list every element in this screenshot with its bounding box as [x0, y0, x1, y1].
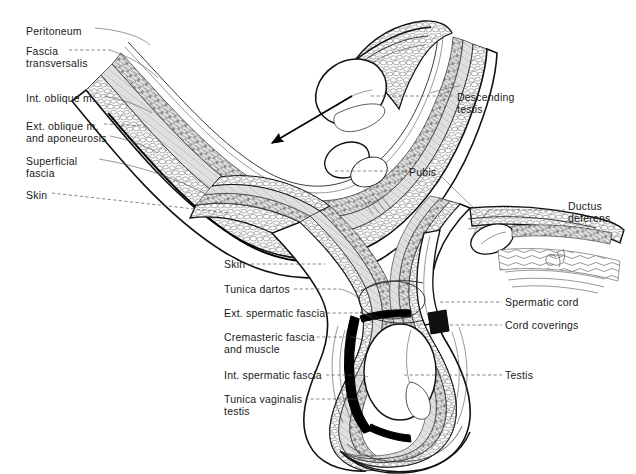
label-tunica-vaginalis-line1: Tunica vaginalis [224, 393, 302, 405]
label-ductus-deferens-line2: deferens [568, 212, 611, 224]
label-ductus-deferens-line1: Ductus [568, 200, 602, 212]
label-tunica-dartos: Tunica dartos [224, 283, 290, 295]
anatomy-illustration [0, 0, 636, 474]
label-ext-oblique-line1: Ext. oblique m. [26, 120, 99, 132]
label-descending-testis-line2: testis [457, 103, 483, 115]
cord-coverings-cuff [428, 310, 449, 334]
label-tunica-vaginalis-line2: testis [224, 405, 250, 417]
label-cremasteric-fascia-line2: and muscle [224, 343, 280, 355]
label-ext-spermatic-fascia: Ext. spermatic fascia [224, 307, 325, 319]
label-testis: Testis [505, 369, 533, 381]
label-cord-coverings: Cord coverings [505, 319, 579, 331]
label-superficial-fascia-line2: fascia [26, 167, 55, 179]
anatomy-figure: Peritoneum Fascia transversalis Int. obl… [0, 0, 636, 474]
tunica-vaginalis-cavity-bottom [368, 424, 411, 442]
label-ext-oblique-line2: and aponeurosis [26, 132, 107, 144]
label-descending-testis-line1: Descending [457, 91, 515, 103]
label-skin-upper: Skin [26, 189, 47, 201]
label-peritoneum: Peritoneum [26, 25, 82, 37]
label-cremasteric-fascia-line1: Cremasteric fascia [224, 331, 315, 343]
label-superficial-fascia-line1: Superficial [26, 155, 77, 167]
label-int-spermatic-fascia: Int. spermatic fascia [224, 369, 322, 381]
label-fascia-transversalis-line1: Fascia [26, 45, 58, 57]
lower-right-areolar-fan [498, 248, 620, 281]
label-pubis: Pubis [409, 166, 436, 178]
leader-peritoneum [95, 28, 150, 45]
label-skin-lower: Skin [224, 258, 245, 270]
label-fascia-transversalis-line2: transversalis [26, 57, 88, 69]
label-int-oblique: Int. oblique m. [26, 92, 95, 104]
label-spermatic-cord: Spermatic cord [505, 296, 579, 308]
